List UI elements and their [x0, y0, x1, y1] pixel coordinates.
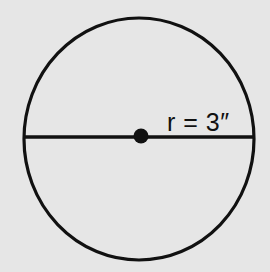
- center-point: [134, 129, 149, 144]
- radius-label: r = 3″: [167, 108, 230, 137]
- circle-diagram: r = 3″: [0, 0, 270, 272]
